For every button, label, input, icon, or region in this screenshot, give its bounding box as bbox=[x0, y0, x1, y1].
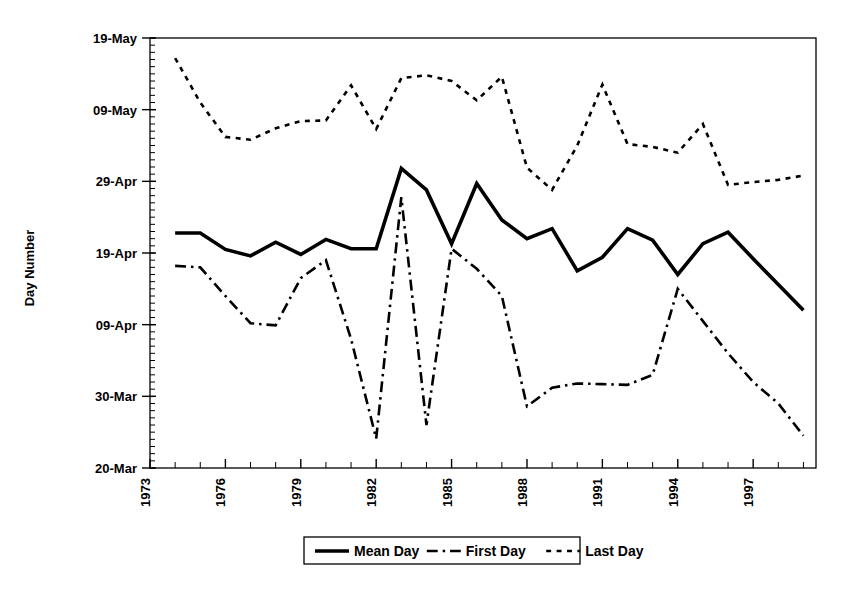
y-tick-label: 30-Mar bbox=[95, 389, 137, 404]
x-tick-label: 1994 bbox=[666, 477, 681, 507]
series-group bbox=[175, 58, 803, 439]
series-line-first-day bbox=[175, 197, 803, 439]
y-tick-label: 20-Mar bbox=[95, 461, 137, 476]
x-tick-label: 1982 bbox=[364, 478, 379, 507]
y-axis-tick-labels: 20-Mar30-Mar09-Apr19-Apr29-Apr09-May19-M… bbox=[93, 31, 138, 476]
x-tick-label: 1991 bbox=[590, 478, 605, 507]
y-axis-title: Day Number bbox=[22, 230, 37, 307]
x-axis-ticks bbox=[150, 459, 803, 468]
y-tick-label: 09-May bbox=[93, 103, 138, 118]
x-axis-tick-labels: 197319761979198219851988199119941997 bbox=[138, 477, 756, 507]
x-tick-label: 1988 bbox=[515, 478, 530, 507]
x-tick-label: 1997 bbox=[741, 478, 756, 507]
legend-label-last-day: Last Day bbox=[585, 543, 644, 559]
x-tick-label: 1973 bbox=[138, 478, 153, 507]
plot-frame bbox=[150, 38, 816, 468]
series-line-last-day bbox=[175, 58, 803, 190]
x-tick-label: 1979 bbox=[289, 478, 304, 507]
chart-legend: Mean DayFirst DayLast Day bbox=[304, 537, 644, 564]
y-tick-label: 09-Apr bbox=[96, 318, 137, 333]
day-number-line-chart: 20-Mar30-Mar09-Apr19-Apr29-Apr09-May19-M… bbox=[0, 0, 859, 593]
legend-label-mean-day: Mean Day bbox=[354, 543, 420, 559]
x-tick-label: 1985 bbox=[440, 478, 455, 507]
x-tick-label: 1976 bbox=[213, 478, 228, 507]
legend-label-first-day: First Day bbox=[466, 543, 526, 559]
y-tick-label: 19-Apr bbox=[96, 246, 137, 261]
series-line-mean-day bbox=[175, 168, 803, 310]
y-tick-label: 29-Apr bbox=[96, 174, 137, 189]
legend-items: Mean DayFirst DayLast Day bbox=[315, 543, 644, 559]
chart-container: 20-Mar30-Mar09-Apr19-Apr29-Apr09-May19-M… bbox=[0, 0, 859, 593]
y-tick-label: 19-May bbox=[93, 31, 138, 46]
